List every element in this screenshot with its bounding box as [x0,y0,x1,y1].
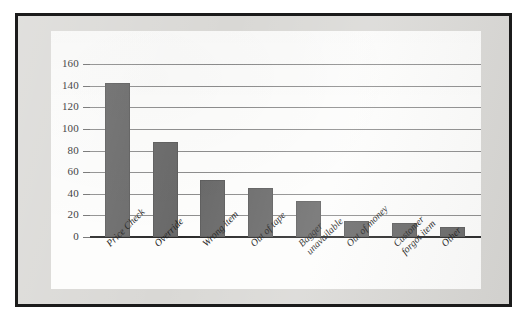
y-tick-label: 20 [51,209,79,220]
x-axis-label: Customerforgot item [391,210,438,257]
gridline [90,151,481,152]
y-tick-label: 120 [51,101,79,112]
plot-panel: 020406080100120140160 Price CheckOverrid… [51,31,481,289]
y-tick-label: 160 [51,58,79,69]
y-tick-mark [83,86,90,87]
gridline [90,129,481,130]
y-tick-label: 140 [51,80,79,91]
y-tick-label: 60 [51,166,79,177]
y-tick-mark [83,107,90,108]
y-tick-mark [83,237,90,238]
y-tick-mark [83,172,90,173]
gridline [90,107,481,108]
bar [105,83,130,237]
y-tick-mark [83,194,90,195]
y-tick-mark [83,151,90,152]
gridline [90,64,481,65]
y-tick-mark [83,129,90,130]
y-tick-label: 40 [51,188,79,199]
gridline [90,172,481,173]
figure-frame: 020406080100120140160 Price CheckOverrid… [15,13,512,307]
y-tick-label: 80 [51,145,79,156]
gridline [90,194,481,195]
gridline [90,86,481,87]
chart-axes: 020406080100120140160 Price CheckOverrid… [51,31,481,289]
y-tick-label: 0 [51,231,79,242]
chart-page: 020406080100120140160 Price CheckOverrid… [0,0,524,314]
y-tick-label: 100 [51,123,79,134]
y-tick-mark [83,215,90,216]
y-tick-mark [83,64,90,65]
